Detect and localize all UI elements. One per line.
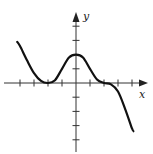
y-axis-arrow-icon bbox=[73, 12, 80, 22]
x-axis-arrow-icon bbox=[139, 80, 148, 87]
axes bbox=[4, 16, 144, 152]
function-graph: y x bbox=[0, 0, 153, 154]
x-axis-label: x bbox=[139, 88, 146, 101]
function-curve bbox=[17, 42, 133, 131]
y-axis-label: y bbox=[82, 10, 90, 23]
